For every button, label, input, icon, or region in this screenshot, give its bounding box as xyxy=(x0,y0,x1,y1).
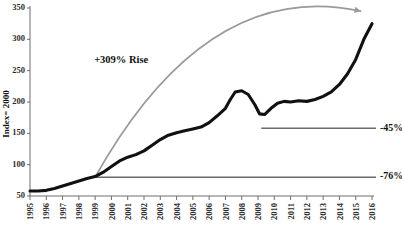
x-tick-label: 1998 xyxy=(74,203,84,220)
drop76-annotation-label: -76% xyxy=(380,170,402,181)
x-tick-label: 2011 xyxy=(286,203,296,220)
y-tick-label: 150 xyxy=(12,127,25,137)
line-chart: 50100150200250300350 1995199619971998199… xyxy=(0,0,402,237)
x-tick-label: 2009 xyxy=(253,203,263,220)
x-tick-label: 2006 xyxy=(204,203,214,220)
x-tick-label: 2005 xyxy=(188,203,198,220)
y-axis-title: Index= 2000 xyxy=(1,90,11,138)
x-tick-label: 2000 xyxy=(107,203,117,220)
x-tick-label: 2008 xyxy=(237,203,247,220)
chart-container: 50100150200250300350 1995199619971998199… xyxy=(0,0,402,237)
x-tick-label: 2014 xyxy=(335,202,345,220)
y-tick-label: 50 xyxy=(17,190,26,200)
x-axis-ticks xyxy=(30,196,372,200)
trend-arrow-icon xyxy=(95,6,361,177)
drop45-annotation-label: -45% xyxy=(380,122,402,133)
x-tick-label: 1996 xyxy=(41,203,51,220)
y-tick-label: 250 xyxy=(12,65,25,75)
x-tick-label: 2012 xyxy=(302,203,312,220)
x-tick-label: 2007 xyxy=(221,202,231,220)
x-tick-label: 2010 xyxy=(269,203,279,220)
index-series-line xyxy=(30,24,372,191)
x-tick-label: 2015 xyxy=(351,203,361,220)
y-tick-label: 200 xyxy=(12,96,25,106)
y-axis-tick-labels: 50100150200250300350 xyxy=(12,2,25,200)
y-tick-label: 300 xyxy=(12,33,25,43)
x-tick-label: 1995 xyxy=(25,203,35,220)
x-tick-label: 2001 xyxy=(123,203,133,220)
trend-arrowhead-icon xyxy=(354,7,361,13)
x-tick-label: 1997 xyxy=(58,202,68,220)
y-tick-label: 350 xyxy=(12,2,25,12)
x-axis-tick-labels: 1995199619971998199920002001200220032004… xyxy=(25,202,377,220)
y-tick-label: 100 xyxy=(12,159,25,169)
x-tick-label: 2002 xyxy=(139,203,149,220)
x-tick-label: 2003 xyxy=(155,203,165,220)
x-tick-label: 2016 xyxy=(367,203,377,220)
x-tick-label: 2013 xyxy=(318,203,328,220)
x-tick-label: 2004 xyxy=(172,202,182,220)
x-tick-label: 1999 xyxy=(90,203,100,220)
rise-annotation-label: +309% Rise xyxy=(94,54,148,65)
